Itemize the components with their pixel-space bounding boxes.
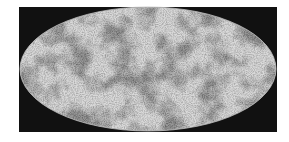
sky-map [0,0,289,142]
